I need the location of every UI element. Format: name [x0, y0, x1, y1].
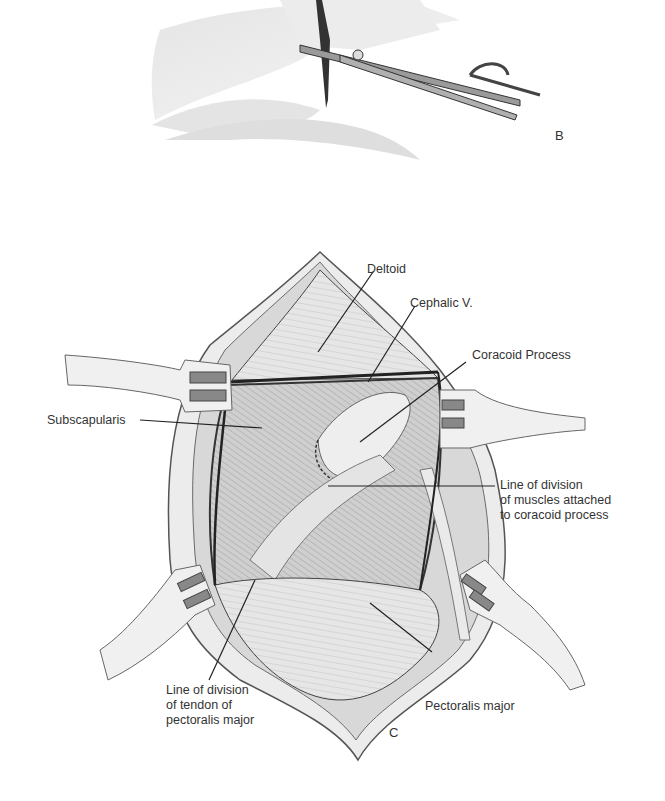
label-cephalic-vein: Cephalic V.	[410, 296, 473, 311]
panel-label-c: C	[389, 725, 398, 740]
retractor-upper-left	[65, 355, 232, 412]
figure-stage: B	[0, 0, 665, 801]
label-line-division-coracoid: Line of division of muscles attached to …	[500, 478, 611, 523]
retractor-upper-right	[440, 390, 585, 448]
label-deltoid: Deltoid	[367, 262, 406, 277]
panel-c-illustration	[0, 0, 665, 801]
label-subscapularis: Subscapularis	[47, 413, 126, 428]
label-line-division-pectoralis: Line of division of tendon of pectoralis…	[166, 683, 254, 728]
label-pectoralis-major: Pectoralis major	[425, 699, 515, 714]
label-coracoid-process: Coracoid Process	[472, 348, 571, 363]
